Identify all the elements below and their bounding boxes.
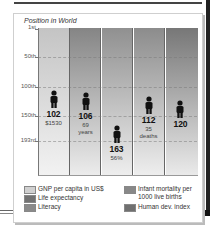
person-icon [80,92,92,110]
page-edge [206,0,210,210]
rank-value: 112 [133,115,164,125]
rank-value: 106 [70,111,101,121]
y-tick-150th: 150th [21,112,36,118]
legend-label-literacy: Literacy [38,203,61,211]
y-tickmark [35,29,39,30]
top-rule [14,2,202,4]
gridline-50th [38,57,197,58]
y-tick-100th: 100th [21,83,36,89]
value-annotation-unit: deaths [133,133,164,140]
legend-label-life-expectancy: Life expectancy [38,194,83,202]
person-icon [174,100,186,118]
legend-label-hdi: Human dev. index [138,203,190,211]
legend-label-gnp: GNP per capita in US$ [38,185,104,193]
value-annotation-unit: years [70,129,101,136]
value-annotation: 35 [133,126,164,133]
gridline-100th [38,87,197,88]
value-annotation: 69 [70,122,101,129]
legend-swatch-literacy [24,204,36,212]
legend-label-infant-mortality: Infant mortality per [138,185,192,193]
value-annotation: 56% [101,155,132,162]
y-tick-193rd: 193rd [21,137,36,143]
chart-title: Position in World [24,17,77,24]
person-icon [143,96,155,114]
legend-swatch-infant-mortality [124,186,136,194]
rank-value: 163 [101,144,132,154]
person-icon [48,90,60,108]
page-edge-corner [204,210,210,216]
legend-swatch-hdi [124,204,136,212]
legend-swatch-gnp [24,186,36,194]
value-annotation: $1530 [38,120,69,127]
legend-swatch-life-expectancy [24,195,36,203]
y-tick-50th: 50th [24,53,36,59]
person-icon [111,125,123,143]
legend-label-infant-mortality-2: 1000 live births [138,193,182,201]
rank-value: 120 [165,119,196,129]
rank-value: 102 [38,109,69,119]
